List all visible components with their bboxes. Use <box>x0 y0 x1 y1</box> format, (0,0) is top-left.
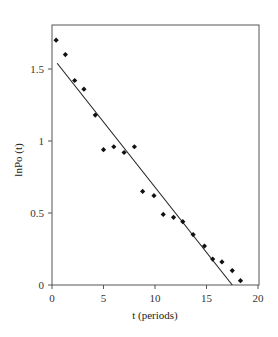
y-tick-label: 0 <box>39 279 45 291</box>
x-tick-label: 5 <box>101 292 107 304</box>
y-tick-label: 1.5 <box>30 63 44 75</box>
y-axis-label: lnPo (t) <box>12 143 25 177</box>
y-tick-label: 1 <box>39 135 45 147</box>
x-tick-label: 10 <box>150 292 162 304</box>
data-point-diamond-icon <box>111 144 116 149</box>
x-tick-label: 15 <box>201 292 213 304</box>
y-tick-label: 0.5 <box>30 207 44 219</box>
x-tick-label: 0 <box>49 292 55 304</box>
data-point-diamond-icon <box>63 52 68 57</box>
data-point-diamond-icon <box>230 268 235 273</box>
data-point-diamond-icon <box>140 189 145 194</box>
data-point-diamond-icon <box>101 147 106 152</box>
data-point-diamond-icon <box>161 212 166 217</box>
data-point-diamond-icon <box>219 259 224 264</box>
x-axis-ticks: 05101520 <box>49 285 264 304</box>
regression-line <box>57 63 232 285</box>
data-point-diamond-icon <box>238 278 243 283</box>
x-axis-label: t (periods) <box>132 309 178 322</box>
data-points <box>54 38 244 284</box>
data-point-diamond-icon <box>54 38 59 43</box>
data-point-diamond-icon <box>132 144 137 149</box>
x-tick-label: 20 <box>253 292 265 304</box>
scatter-chart: 00.511.5 05101520 t (periods) lnPo (t) <box>0 0 278 337</box>
plot-frame <box>52 25 259 285</box>
data-point-diamond-icon <box>151 193 156 198</box>
data-point-diamond-icon <box>171 215 176 220</box>
data-point-diamond-icon <box>81 87 86 92</box>
y-axis-ticks: 00.511.5 <box>30 63 52 291</box>
fitted-line <box>57 63 232 285</box>
